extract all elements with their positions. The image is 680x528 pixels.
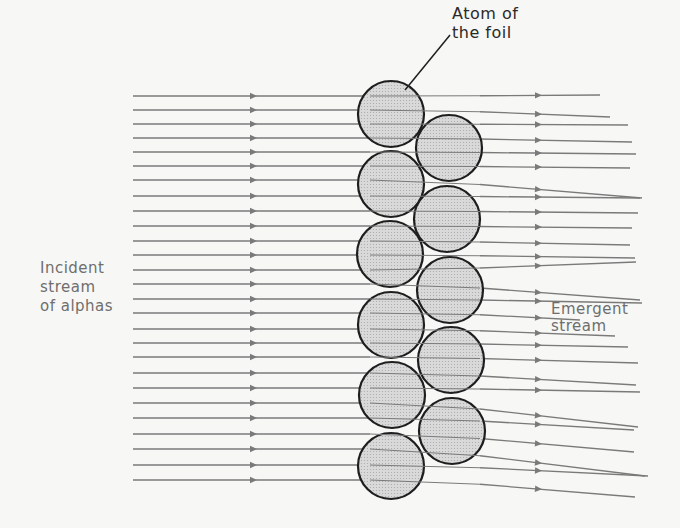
arrowhead-icon [250, 340, 257, 346]
arrowhead-icon [250, 267, 257, 273]
arrowhead-icon [250, 252, 257, 258]
arrowhead-icon [250, 385, 257, 391]
arrowhead-icon [250, 310, 257, 316]
ray-through-foil [370, 226, 480, 227]
emergent-ray [480, 376, 636, 385]
foil-atom [416, 115, 482, 181]
emergent-label: Emergent stream [551, 301, 628, 335]
arrowhead-icon [250, 296, 257, 302]
arrowhead-icon [250, 477, 257, 483]
arrowhead-icon [535, 121, 542, 127]
foil-atom [417, 257, 483, 323]
arrowhead-icon [250, 354, 257, 360]
arrowhead-icon [535, 330, 542, 336]
arrowhead-icon [535, 253, 542, 259]
ray-through-foil [370, 166, 480, 167]
arrowhead-icon [535, 111, 542, 117]
arrowhead-icon [250, 370, 257, 376]
emergent-ray [480, 484, 635, 497]
emergent-ray [480, 344, 628, 347]
ray-through-foil [370, 255, 480, 256]
arrowhead-icon [250, 400, 257, 406]
emergent-ray [480, 167, 630, 169]
arrowhead-icon [535, 486, 542, 492]
incident-label-line-1: Incident [40, 259, 113, 278]
emergent-ray [480, 262, 636, 268]
emergent-ray [480, 242, 630, 245]
foil-atom [357, 221, 423, 287]
arrowhead-icon [250, 238, 257, 244]
atom-label-line-2: the foil [452, 23, 518, 42]
arrowhead-icon [535, 421, 542, 427]
arrowhead-icon [535, 357, 542, 363]
arrowhead-icon [535, 92, 542, 98]
arrowhead-icon [535, 376, 542, 382]
emergent-label-line-2: stream [551, 318, 628, 335]
emergent-ray [480, 112, 610, 117]
arrowhead-icon [535, 289, 542, 295]
ray-through-foil [370, 152, 480, 153]
emergent-ray [480, 468, 648, 476]
atom-label-line-1: Atom of [452, 4, 518, 23]
emergent-ray [480, 439, 634, 453]
arrowhead-icon [535, 224, 542, 230]
arrowhead-icon [535, 467, 542, 473]
arrowhead-icon [250, 431, 257, 437]
arrowhead-icon [535, 240, 542, 246]
arrowhead-icon [535, 186, 542, 192]
arrowhead-icon [535, 164, 542, 170]
emergent-ray [480, 139, 632, 142]
arrowhead-icon [250, 415, 257, 421]
arrowhead-icon [535, 150, 542, 156]
foil-atom [418, 327, 484, 393]
arrowhead-icon [250, 135, 257, 141]
emergent-label-line-1: Emergent [551, 301, 628, 318]
emergent-ray [480, 227, 632, 229]
atom-label: Atom of the foil [452, 4, 518, 42]
arrowhead-icon [535, 459, 542, 465]
arrowhead-icon [250, 208, 257, 214]
incident-label: Incident stream of alphas [40, 259, 113, 316]
emergent-ray [480, 288, 640, 300]
incident-label-line-2: stream [40, 278, 113, 297]
arrowhead-icon [250, 163, 257, 169]
arrowhead-icon [250, 149, 257, 155]
arrowhead-icon [535, 263, 542, 269]
arrowhead-icon [535, 298, 542, 304]
arrowhead-icon [535, 387, 542, 393]
emergent-ray [480, 124, 628, 125]
emergent-ray [480, 153, 636, 155]
emergent-ray [480, 212, 638, 214]
foil-atom [358, 81, 424, 147]
emergent-ray [480, 185, 642, 199]
emergent-ray [480, 456, 645, 476]
arrowhead-icon [250, 193, 257, 199]
arrowhead-icon [250, 177, 257, 183]
arrowhead-icon [250, 223, 257, 229]
ray-through-foil [370, 211, 480, 212]
arrowhead-icon [535, 194, 542, 200]
arrowhead-icon [250, 93, 257, 99]
emergent-ray [480, 197, 640, 199]
arrowhead-icon [535, 209, 542, 215]
arrowhead-icon [535, 137, 542, 143]
atom-pointer-line [405, 35, 450, 90]
rutherford-scattering-diagram: Atom of the foil Incident stream of alph… [0, 0, 680, 528]
emergent-ray [480, 389, 640, 392]
emergent-ray [480, 409, 638, 427]
foil-atom [358, 151, 424, 217]
arrowhead-icon [250, 326, 257, 332]
incident-label-line-3: of alphas [40, 297, 113, 316]
emergent-ray [480, 256, 635, 258]
arrowhead-icon [250, 462, 257, 468]
emergent-ray [480, 421, 634, 430]
arrowhead-icon [250, 121, 257, 127]
foil-atom [358, 292, 424, 358]
arrowhead-icon [535, 314, 542, 320]
ray-through-foil [370, 196, 480, 197]
arrowhead-icon [250, 281, 257, 287]
arrowhead-icon [250, 107, 257, 113]
emergent-ray [480, 359, 638, 364]
arrowhead-icon [250, 446, 257, 452]
arrowhead-icon [535, 412, 542, 418]
